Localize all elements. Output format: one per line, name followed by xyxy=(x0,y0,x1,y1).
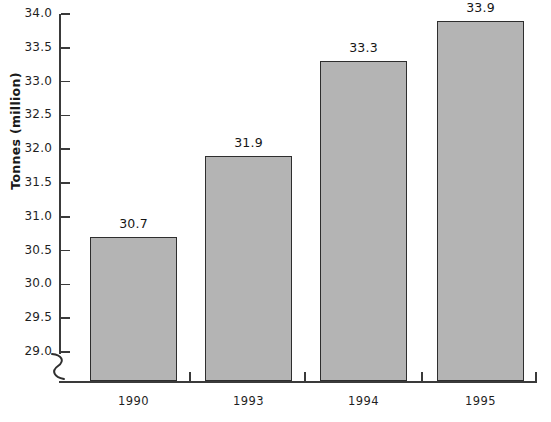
y-axis-tick-labels: 34.033.533.032.532.031.531.030.530.029.5… xyxy=(0,0,52,422)
axis-break-icon xyxy=(46,352,80,384)
x-axis-tick xyxy=(535,372,537,381)
y-axis-tick xyxy=(61,81,70,83)
y-axis-tick xyxy=(61,115,70,117)
x-axis-tick-label: 1993 xyxy=(205,394,292,408)
y-axis-tick-label: 31.0 xyxy=(10,209,52,223)
y-axis-tick-label: 30.5 xyxy=(10,243,52,257)
y-axis-tick-label: 30.0 xyxy=(10,276,52,290)
y-axis-tick-label: 34.0 xyxy=(10,6,52,20)
bar-value-label: 30.7 xyxy=(90,216,177,231)
bar-chart: Tonnes (million) 34.033.533.032.532.031.… xyxy=(0,0,551,422)
x-axis-tick xyxy=(304,372,306,381)
y-axis-tick xyxy=(61,317,70,319)
y-axis-tick-label: 32.5 xyxy=(10,107,52,121)
bar xyxy=(90,237,177,381)
y-axis-tick xyxy=(61,148,70,150)
x-axis-tick-label: 1994 xyxy=(320,394,407,408)
y-axis-tick xyxy=(61,284,70,286)
x-axis-tick xyxy=(421,372,423,381)
y-axis-tick xyxy=(61,47,70,49)
y-axis-tick-label: 32.0 xyxy=(10,141,52,155)
bar xyxy=(437,21,524,381)
bar-value-label: 33.3 xyxy=(320,40,407,55)
y-axis-tick-label: 29.5 xyxy=(10,310,52,324)
y-axis-line xyxy=(59,14,61,354)
y-axis-tick xyxy=(61,13,70,15)
bar-value-label: 33.9 xyxy=(437,0,524,15)
y-axis-tick-label: 31.5 xyxy=(10,175,52,189)
bar xyxy=(320,61,407,381)
y-axis-tick-label: 33.0 xyxy=(10,74,52,88)
y-axis-tick-label: 33.5 xyxy=(10,40,52,54)
x-axis-tick-label: 1995 xyxy=(437,394,524,408)
y-axis-tick xyxy=(61,216,70,218)
y-axis-tick xyxy=(61,182,70,184)
bar xyxy=(205,156,292,381)
x-axis-line xyxy=(59,381,537,383)
x-axis-tick-label: 1990 xyxy=(90,394,177,408)
y-axis-tick xyxy=(61,250,70,252)
x-axis-tick xyxy=(189,372,191,381)
bar-value-label: 31.9 xyxy=(205,135,292,150)
